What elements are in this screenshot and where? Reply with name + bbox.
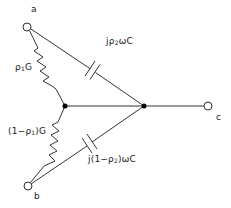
resistor-lower-label: (1−ρ1)G [8, 127, 46, 136]
capacitor-lower-label: j(1−ρ2)ωC [88, 155, 136, 164]
junction-node-left [63, 104, 68, 109]
label-prefix: (1−ρ [8, 126, 31, 136]
terminal-b-label: b [34, 192, 40, 201]
circuit-diagram: a b c ρ1G (1−ρ1)G jρ2ωC j(1−ρ2)ωC [0, 0, 231, 208]
terminal-c [204, 102, 212, 110]
wire-cap-lower-junction [92, 106, 144, 142]
circuit-drawing [0, 0, 231, 208]
label-prefix: jρ [106, 36, 115, 46]
capacitor-lower-plate-2 [87, 134, 97, 149]
junction-node-right [142, 104, 147, 109]
resistor-upper [30, 31, 66, 107]
terminal-c-label: c [216, 113, 221, 122]
resistor-upper-label: ρ1G [15, 63, 32, 72]
terminal-a [23, 23, 31, 31]
wire-cap-upper-junction [96, 73, 145, 107]
label-suffix: ωC [119, 36, 133, 46]
label-suffix: )ωC [118, 154, 136, 164]
label-suffix: )G [35, 126, 46, 136]
terminal-b [24, 182, 32, 190]
label-prefix: j(1−ρ [88, 154, 114, 164]
terminal-a-label: a [31, 5, 37, 14]
wire-b-cap-lower [31, 146, 87, 184]
capacitor-lower-plate-1 [82, 138, 92, 153]
label-suffix: G [25, 62, 32, 72]
capacitor-upper-label: jρ2ωC [106, 37, 133, 46]
resistor-lower [31, 106, 66, 183]
